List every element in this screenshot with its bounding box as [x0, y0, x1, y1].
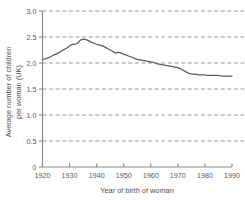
- x-tick-label-1970: 1970: [170, 171, 186, 180]
- y-axis-title-line1: Average number of children: [4, 47, 13, 138]
- y-tick-label-2.5: 2.5: [27, 33, 37, 42]
- x-tick-label-1920: 1920: [35, 171, 51, 180]
- chart-figure: 00.51.01.52.02.53.0 19201930194019501960…: [0, 0, 245, 200]
- y-tick-label-3.0: 3.0: [27, 7, 37, 16]
- x-axis-title: Year of birth of woman: [100, 186, 174, 195]
- x-tick-label-1940: 1940: [89, 171, 105, 180]
- chart-background: [0, 0, 245, 200]
- line-chart: 00.51.01.52.02.53.0 19201930194019501960…: [0, 0, 245, 200]
- x-tick-label-1960: 1960: [143, 171, 159, 180]
- x-tick-label-1980: 1980: [197, 171, 213, 180]
- x-tick-label-1990: 1990: [224, 171, 240, 180]
- y-tick-label-1.0: 1.0: [27, 111, 37, 120]
- y-tick-label-0.5: 0.5: [27, 137, 37, 146]
- y-tick-label-1.5: 1.5: [27, 85, 37, 94]
- x-tick-label-1950: 1950: [116, 171, 132, 180]
- y-tick-label-2.0: 2.0: [27, 59, 37, 68]
- x-tick-label-1930: 1930: [62, 171, 78, 180]
- y-axis-title-line2: per woman (UK): [14, 65, 23, 119]
